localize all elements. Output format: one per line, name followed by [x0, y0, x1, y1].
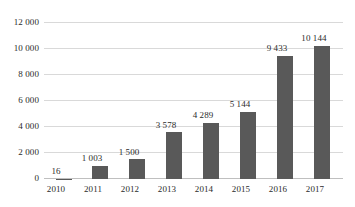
x-axis-tick-label-2016: 2016 — [258, 185, 298, 194]
bar-value-label-2015: 5 144 — [213, 100, 267, 109]
x-axis-tick-label-2014: 2014 — [184, 185, 224, 194]
gridline-6000 — [44, 100, 343, 101]
bar-2017 — [314, 46, 330, 179]
bar-value-label-2012: 1 500 — [102, 148, 156, 157]
x-axis-tick-label-2012: 2012 — [110, 185, 150, 194]
bar-2013 — [166, 132, 182, 179]
y-axis-tick-label: 6 000 — [0, 96, 39, 105]
bar-2015 — [240, 112, 256, 179]
bar-value-label-2010: 16 — [29, 167, 83, 176]
y-axis-tick-label: 12 000 — [0, 18, 39, 27]
gridline-12000 — [44, 22, 343, 23]
bar-2014 — [203, 123, 219, 179]
bar-chart: 12 000 10 000 8 000 6 000 4 000 2 000 0 … — [0, 0, 355, 207]
x-axis-tick-label-2015: 2015 — [221, 185, 261, 194]
bar-value-label-2016: 9 433 — [250, 44, 304, 53]
bar-2016 — [277, 56, 293, 179]
bar-2011 — [92, 166, 108, 179]
bar-value-label-2017: 10 144 — [287, 34, 341, 43]
y-axis-tick-label: 2 000 — [0, 148, 39, 157]
bar-value-label-2013: 3 578 — [139, 121, 193, 130]
x-axis-tick-label-2011: 2011 — [73, 185, 113, 194]
y-axis-tick-label: 10 000 — [0, 44, 39, 53]
x-axis-tick-label-2013: 2013 — [147, 185, 187, 194]
bar-2012 — [129, 159, 145, 179]
y-axis-tick-label: 4 000 — [0, 122, 39, 131]
gridline-8000 — [44, 74, 343, 75]
x-axis-tick-label-2010: 2010 — [36, 185, 76, 194]
gridline-4000 — [44, 126, 343, 127]
bar-value-label-2014: 4 289 — [176, 111, 230, 120]
x-axis-tick-label-2017: 2017 — [295, 185, 335, 194]
gridline-0-baseline — [44, 178, 343, 179]
y-axis-tick-label: 8 000 — [0, 70, 39, 79]
